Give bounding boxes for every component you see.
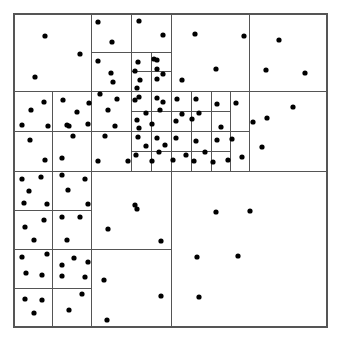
data-point xyxy=(59,262,64,267)
data-point xyxy=(202,149,207,154)
data-point xyxy=(28,107,33,112)
data-point xyxy=(19,254,24,259)
data-point xyxy=(42,33,47,38)
data-point xyxy=(86,100,91,105)
data-point xyxy=(160,71,165,76)
data-point xyxy=(160,99,165,104)
quadtree-figure xyxy=(0,0,340,344)
data-point xyxy=(114,96,119,101)
data-point xyxy=(192,31,197,36)
data-point xyxy=(109,39,114,44)
data-point xyxy=(156,149,161,154)
data-point xyxy=(41,99,46,104)
data-point xyxy=(193,96,198,101)
data-point xyxy=(82,176,87,181)
data-point xyxy=(21,200,26,205)
data-point xyxy=(70,133,75,138)
data-point xyxy=(41,217,46,222)
data-point xyxy=(39,272,44,277)
data-point xyxy=(218,124,223,129)
data-point xyxy=(160,32,165,37)
data-point xyxy=(235,253,240,258)
data-point xyxy=(173,118,178,123)
data-point xyxy=(105,226,110,231)
data-point xyxy=(22,296,27,301)
data-point xyxy=(210,159,215,164)
data-point xyxy=(97,91,102,96)
data-point xyxy=(213,209,218,214)
data-point xyxy=(149,158,154,163)
data-point xyxy=(264,115,269,120)
data-point xyxy=(154,76,159,81)
data-point xyxy=(174,96,179,101)
data-point xyxy=(233,100,238,105)
data-point xyxy=(39,297,44,302)
data-point xyxy=(302,70,307,75)
data-point xyxy=(133,152,138,157)
data-point xyxy=(19,122,24,127)
data-point xyxy=(132,68,137,73)
data-point xyxy=(45,123,50,128)
data-point xyxy=(136,125,141,130)
data-point xyxy=(196,294,201,299)
data-point xyxy=(213,66,218,71)
data-point xyxy=(154,66,159,71)
data-point xyxy=(259,144,264,149)
data-point xyxy=(162,142,167,147)
data-point xyxy=(26,188,31,193)
data-point xyxy=(125,158,130,163)
data-point xyxy=(79,291,84,296)
data-point xyxy=(31,237,36,242)
data-point xyxy=(214,101,219,106)
data-point xyxy=(154,135,159,140)
data-point xyxy=(290,104,295,109)
data-point xyxy=(135,134,140,139)
data-point xyxy=(158,238,163,243)
data-point xyxy=(134,85,139,90)
data-point xyxy=(194,254,199,259)
data-point xyxy=(59,273,64,278)
data-point xyxy=(250,119,255,124)
data-point xyxy=(135,59,140,64)
data-point xyxy=(225,157,230,162)
data-point xyxy=(241,33,246,38)
data-point xyxy=(179,77,184,82)
data-point xyxy=(247,208,252,213)
data-point xyxy=(154,57,159,62)
data-point xyxy=(64,122,69,127)
data-point xyxy=(143,143,148,148)
data-point xyxy=(85,121,90,126)
data-point xyxy=(59,172,64,177)
data-point xyxy=(59,214,64,219)
data-point xyxy=(27,137,32,142)
data-point xyxy=(85,259,90,264)
data-point xyxy=(23,270,28,275)
data-point xyxy=(112,123,117,128)
data-point xyxy=(154,95,159,100)
data-point xyxy=(136,18,141,23)
data-point xyxy=(65,187,70,192)
data-point xyxy=(105,107,110,112)
data-point xyxy=(77,214,82,219)
data-point xyxy=(60,97,65,102)
data-point xyxy=(95,58,100,63)
partition-plot-svg xyxy=(0,0,340,344)
data-point xyxy=(143,110,148,115)
data-point xyxy=(32,74,37,79)
data-point xyxy=(183,152,188,157)
data-point xyxy=(134,206,139,211)
data-point xyxy=(134,117,139,122)
data-point xyxy=(158,293,163,298)
data-point xyxy=(77,51,82,56)
data-point xyxy=(71,255,76,260)
data-point xyxy=(95,158,100,163)
data-point xyxy=(179,111,184,116)
data-point xyxy=(191,158,196,163)
data-point xyxy=(189,116,194,121)
data-point xyxy=(149,121,154,126)
data-point xyxy=(193,138,198,143)
data-point xyxy=(132,97,137,102)
data-point xyxy=(59,155,64,160)
data-point xyxy=(214,137,219,142)
data-point xyxy=(74,109,79,114)
